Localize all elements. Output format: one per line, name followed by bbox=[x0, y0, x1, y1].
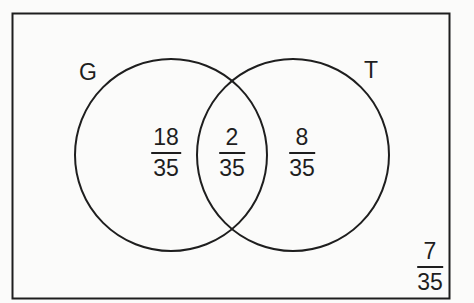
numerator: 7 bbox=[422, 240, 439, 266]
region-t-only: 8 35 bbox=[289, 126, 315, 180]
numerator: 2 bbox=[224, 126, 241, 152]
denominator: 35 bbox=[153, 154, 179, 180]
numerator: 18 bbox=[151, 126, 181, 152]
denominator: 35 bbox=[289, 154, 315, 180]
set-t-label: T bbox=[364, 59, 378, 82]
region-g-and-t: 2 35 bbox=[219, 126, 245, 180]
numerator: 8 bbox=[294, 126, 311, 152]
denominator: 35 bbox=[219, 154, 245, 180]
denominator: 35 bbox=[417, 268, 443, 294]
set-g-label: G bbox=[79, 61, 97, 84]
region-g-only: 18 35 bbox=[151, 126, 181, 180]
region-neither: 7 35 bbox=[417, 240, 443, 294]
